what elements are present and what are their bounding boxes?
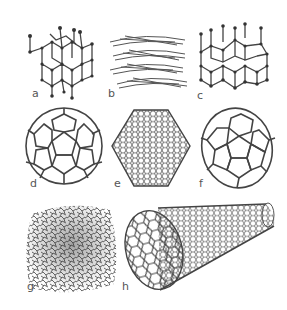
panel-a-diamond: a (22, 18, 102, 100)
panel-g-amorphous: g (22, 200, 120, 298)
panel-b-graphite: b (105, 18, 190, 100)
lonsdaleite-structure-icon (195, 18, 275, 100)
panel-label-e: e (114, 178, 121, 189)
carbon-nanotube-icon (118, 200, 278, 298)
panel-c-lonsdaleite: c (195, 18, 275, 100)
panel-f-c70: f (195, 106, 277, 190)
panel-e-c540: e (108, 106, 194, 190)
figure: a b (0, 0, 287, 310)
panel-d-c60: d (22, 106, 104, 190)
panel-label-h: h (122, 281, 129, 292)
panel-label-a: a (32, 88, 39, 99)
amorphous-carbon-icon (22, 200, 120, 298)
panel-label-g: g (27, 281, 34, 292)
panel-h-nanotube: h (118, 200, 278, 298)
graphite-structure-icon (105, 18, 190, 100)
panel-label-f: f (199, 178, 203, 189)
panel-label-c: c (197, 90, 203, 101)
panel-label-b: b (108, 88, 115, 99)
c70-fullerene-icon (195, 106, 277, 190)
panel-label-d: d (30, 178, 37, 189)
